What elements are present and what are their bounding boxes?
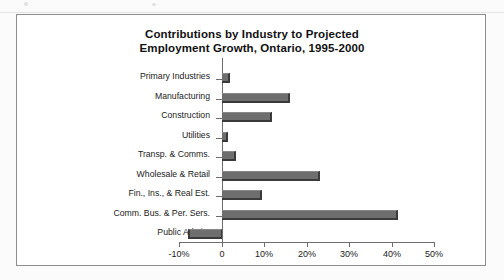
x-tick-label: 0 [219, 249, 224, 259]
chart-frame: Contributions by Industry to Projected E… [16, 14, 486, 266]
category-label: Construction [161, 110, 210, 120]
bar-comm-bus-per-sers [222, 210, 398, 220]
category-label: Transp. & Comms. [138, 149, 210, 159]
bar-transp-comms [222, 151, 236, 161]
bar-row: Fin., Ins., & Real Est. [17, 187, 487, 207]
bar-fin-ins-real-est [222, 190, 262, 200]
category-label: Fin., Ins., & Real Est. [128, 188, 210, 198]
category-label: Primary Industries [140, 71, 210, 81]
bar-construction [222, 112, 272, 122]
bar-public-admin [188, 229, 222, 239]
chart-page: Contributions by Industry to Projected E… [0, 0, 504, 280]
bar-row: Utilities [17, 129, 487, 149]
plot-area: Primary Industries Manufacturing Constru… [17, 15, 487, 267]
bar-manufacturing [222, 93, 290, 103]
scan-artifact-speck [24, 2, 28, 6]
scan-artifact-line [0, 12, 504, 13]
category-label: Manufacturing [155, 91, 210, 101]
bar-row: Manufacturing [17, 90, 487, 110]
scan-artifact-speck [152, 3, 156, 6]
x-tick-label: -10% [168, 249, 189, 259]
x-tick-label: 50% [425, 249, 443, 259]
category-label: Utilities [182, 130, 210, 140]
x-tick [349, 242, 350, 247]
x-tick [264, 242, 265, 247]
x-tick-label: 10% [255, 249, 273, 259]
bar-row: Transp. & Comms. [17, 148, 487, 168]
bar-wholesale-retail [222, 171, 320, 181]
x-tick-label: 20% [298, 249, 316, 259]
x-tick [222, 242, 223, 247]
x-tick-label: 30% [340, 249, 358, 259]
bar-row: Wholesale & Retail [17, 168, 487, 188]
bar-row: Primary Industries [17, 70, 487, 90]
x-tick-label: 40% [383, 249, 401, 259]
bar-rows: Primary Industries Manufacturing Constru… [17, 70, 487, 246]
x-tick [392, 242, 393, 247]
bar-row: Construction [17, 109, 487, 129]
x-axis-ticks: -10% 0 10% 20% 30% 40% 50% [17, 242, 487, 266]
category-label: Wholesale & Retail [137, 169, 210, 179]
bar-primary-industries [222, 73, 230, 83]
x-tick [434, 242, 435, 247]
x-tick [307, 242, 308, 247]
x-tick [179, 242, 180, 247]
bar-utilities [222, 132, 228, 142]
bar-row: Comm. Bus. & Per. Sers. [17, 207, 487, 227]
category-label: Comm. Bus. & Per. Sers. [113, 208, 210, 218]
